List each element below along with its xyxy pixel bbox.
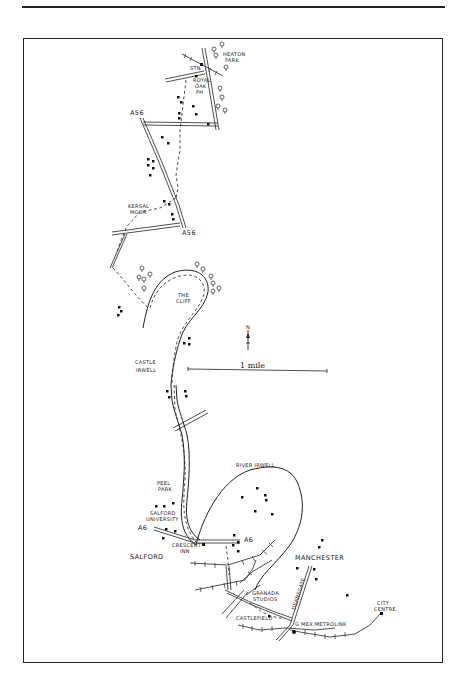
royal-oak-label-3: PH xyxy=(196,89,203,95)
a6-west-label: A6 xyxy=(138,524,147,532)
castle-irwell-label: CASTLE xyxy=(135,359,156,365)
road-north-south xyxy=(202,48,219,130)
crescent-inn-label-2: INN xyxy=(180,548,190,554)
road-a56 xyxy=(140,118,186,228)
a56-north-label: A56 xyxy=(130,109,144,117)
deansgate-label: DEANSGATE xyxy=(290,577,306,610)
a6-east-label: A6 xyxy=(244,536,253,544)
station-label: STN xyxy=(190,65,201,71)
buildings-north xyxy=(161,96,210,145)
castle-irwell-label-2: IRWELL xyxy=(136,367,156,373)
crescent-inn-marker xyxy=(202,543,205,546)
building xyxy=(120,310,123,313)
scale-label: 1 mile xyxy=(240,361,265,370)
castlefield-label: CASTLEFIELD xyxy=(236,615,273,621)
railway-west xyxy=(110,234,127,268)
river-irwell-loop xyxy=(196,467,302,590)
salford-university-label-2: UNIVERSITY xyxy=(146,516,179,522)
road-a56-south xyxy=(112,223,180,235)
buildings-cliff-south xyxy=(183,337,191,346)
building xyxy=(118,306,121,309)
granada-studios-label-2: STUDIOS xyxy=(253,596,277,602)
kersal-moor-label-2: MOOR xyxy=(130,209,147,215)
city-centre-label-2: CENTRE xyxy=(374,606,396,612)
manchester-label: MANCHESTER xyxy=(295,554,344,562)
road-crossing-castle-irwell xyxy=(173,410,208,431)
cliff-trees-west xyxy=(137,266,152,292)
g-mex-station-marker xyxy=(292,630,296,634)
peel-park-label-2: PARK xyxy=(158,486,172,492)
river-irwell-label: RIVER IRWELL xyxy=(236,462,275,468)
salford-label: SALFORD xyxy=(130,553,164,561)
building xyxy=(117,314,120,317)
a56-south-label: A56 xyxy=(182,229,196,237)
city-centre-marker xyxy=(380,612,383,615)
walking-route-cliff-approach xyxy=(113,268,148,308)
heaton-park-label-2: PARK xyxy=(225,57,239,63)
g-mex-metrolink-label: G MEX METROLINK xyxy=(295,621,347,627)
river-irwell-middle-2 xyxy=(176,385,200,540)
route-map: HEATON PARK STN ROYAL OAK PH A56 xyxy=(0,0,464,689)
royal-oak-marker xyxy=(195,75,198,78)
north-label: N xyxy=(246,324,250,330)
north-arrow xyxy=(246,330,250,350)
the-cliff-label-2: CLIFF xyxy=(176,298,191,304)
